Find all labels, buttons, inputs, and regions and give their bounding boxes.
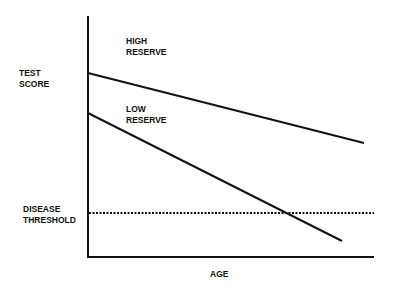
low-reserve-line	[88, 113, 342, 241]
y-axis-label: TEST SCORE	[19, 68, 49, 90]
high-reserve-label: HIGH RESERVE	[126, 36, 166, 58]
reserve-diagram	[0, 0, 393, 291]
low-reserve-label: LOW RESERVE	[126, 104, 166, 126]
x-axis-label: AGE	[210, 269, 228, 280]
threshold-label: DISEASE THRESHOLD	[23, 204, 76, 226]
